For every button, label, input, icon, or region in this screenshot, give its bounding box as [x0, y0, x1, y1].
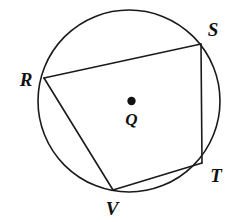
chord-segment-rs — [44, 44, 201, 78]
vertex-label-t: T — [210, 166, 222, 185]
center-point-dot — [127, 97, 135, 105]
center-label-q: Q — [125, 111, 137, 128]
vertex-label-v: V — [106, 199, 119, 218]
vertex-label-s: S — [208, 20, 219, 39]
geometry-figure: R S T V Q — [0, 0, 236, 222]
chord-segment-tv — [113, 163, 202, 190]
geometry-canvas — [0, 0, 236, 222]
vertex-label-r: R — [20, 70, 33, 89]
chord-segment-vr — [44, 78, 113, 190]
chord-segment-st — [201, 44, 202, 163]
